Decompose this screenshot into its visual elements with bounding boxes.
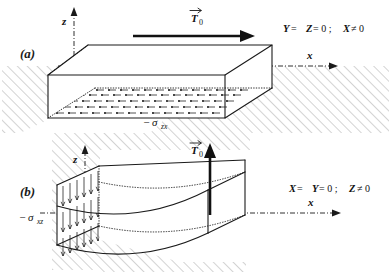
panel-label-a: (a) <box>20 46 35 61</box>
x-axis-arrowhead-b <box>332 210 341 217</box>
figure-root: z x <box>0 0 391 279</box>
condition-b-op3: ≠ 0 <box>357 183 370 194</box>
z-axis-label-b: z <box>72 153 78 165</box>
traction-subscript-b: 0 <box>199 150 203 159</box>
traction-arrow-a <box>133 30 255 42</box>
stress-subscript-a: zx <box>160 122 168 131</box>
condition-a-var2: Z <box>305 23 313 34</box>
z-axis-label-a: z <box>61 15 67 27</box>
panel-b: z x <box>19 133 370 272</box>
stress-sign-a: − <box>143 116 150 128</box>
traction-label-b: T 0 <box>190 141 203 159</box>
hatch-top-b <box>52 133 250 160</box>
traction-label-a: T 0 <box>190 8 203 27</box>
condition-b-var3: Z <box>348 183 356 194</box>
hatch-bottom-b <box>100 240 246 272</box>
slab-front-face-a <box>48 75 225 118</box>
stress-diagram: z x <box>0 0 391 279</box>
stress-symbol-b: σ <box>28 211 34 223</box>
condition-b: X = Y = 0 ; Z ≠ 0 <box>288 183 370 194</box>
hatch-left-lower-a <box>2 120 48 133</box>
condition-a-var1: Y <box>283 23 291 34</box>
traction-symbol-a: T <box>191 12 199 24</box>
panel-a: z x <box>2 7 389 133</box>
stress-sign-b: − <box>19 211 26 223</box>
condition-b-var1: X <box>288 183 297 194</box>
x-axis-label-b: x <box>307 196 314 208</box>
stress-symbol-a: σ <box>152 116 158 128</box>
condition-a-op2: = 0 ; <box>313 23 332 34</box>
traction-subscript-a: 0 <box>199 18 203 27</box>
condition-b-op2: = 0 ; <box>319 183 338 194</box>
condition-a-var3: X <box>342 23 351 34</box>
stress-subscript-b: xz <box>36 217 43 226</box>
condition-a-op3: ≠ 0 <box>351 23 364 34</box>
condition-b-op1: = <box>297 183 303 194</box>
z-axis-arrowhead-a <box>71 7 78 16</box>
stress-label-b: − σ xz <box>19 211 43 226</box>
condition-a-op1: = <box>291 23 297 34</box>
condition-a: Y = Z = 0 ; X ≠ 0 <box>283 23 364 34</box>
x-axis-label-a: x <box>306 49 313 61</box>
panel-label-b: (b) <box>20 184 35 199</box>
